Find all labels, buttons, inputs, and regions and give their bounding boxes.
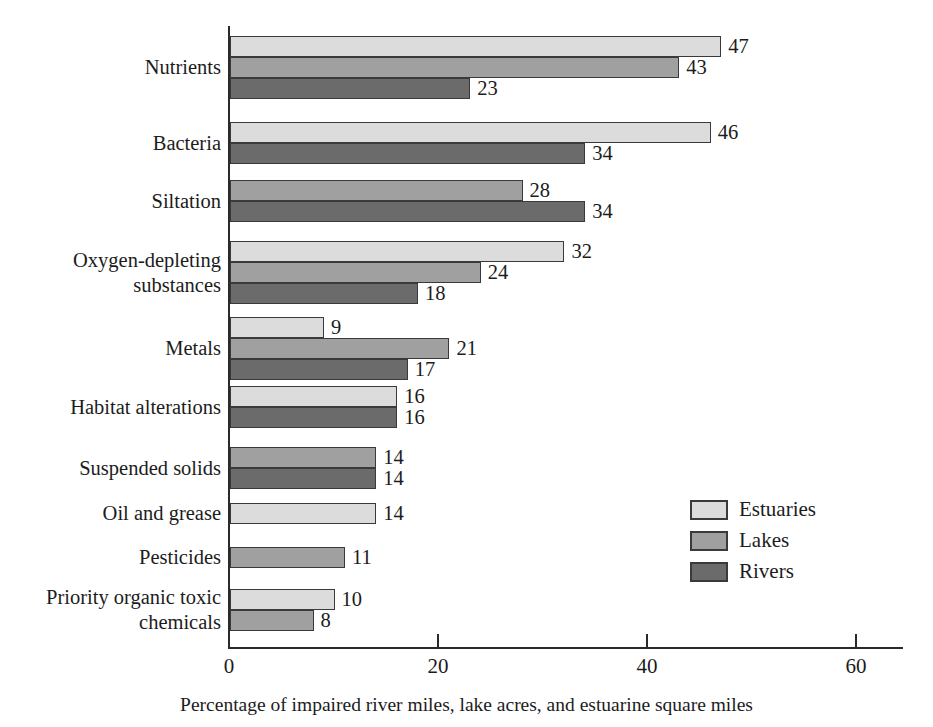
- bar-value-label: 21: [456, 337, 477, 360]
- bar: [230, 503, 376, 524]
- x-axis-tick-label: 40: [637, 654, 658, 679]
- bar: [230, 610, 314, 631]
- legend-swatch: [690, 531, 728, 551]
- bar-value-label: 23: [477, 77, 498, 100]
- bar-value-label: 14: [383, 446, 404, 469]
- x-axis-caption: Percentage of impaired river miles, lake…: [0, 694, 933, 716]
- bar: [230, 78, 470, 99]
- legend-item: Estuaries: [690, 494, 816, 525]
- category-label: Pesticides: [139, 545, 221, 570]
- category-label: Oxygen-depleting substances: [73, 248, 221, 298]
- category-label: Priority organic toxic chemicals: [46, 585, 221, 635]
- bar: [230, 338, 449, 359]
- x-axis-tick-label: 60: [846, 654, 867, 679]
- category-label: Oil and grease: [103, 501, 221, 526]
- legend-label: Estuaries: [739, 497, 816, 522]
- bar-value-label: 43: [686, 56, 707, 79]
- x-axis-tick: [646, 634, 648, 648]
- bar-value-label: 11: [352, 546, 372, 569]
- bar-value-label: 18: [425, 282, 446, 305]
- category-label: Metals: [165, 336, 221, 361]
- bar: [230, 589, 335, 610]
- bar: [230, 547, 345, 568]
- legend-swatch: [690, 500, 728, 520]
- bar-value-label: 46: [718, 121, 739, 144]
- bar: [230, 386, 397, 407]
- bar: [230, 180, 523, 201]
- bar-value-label: 34: [592, 142, 613, 165]
- bar: [230, 122, 711, 143]
- category-label: Habitat alterations: [70, 395, 221, 420]
- x-axis-tick-label: 20: [428, 654, 449, 679]
- x-axis-tick: [437, 634, 439, 648]
- category-label: Suspended solids: [79, 456, 221, 481]
- bar: [230, 262, 481, 283]
- bar-value-label: 28: [530, 179, 551, 202]
- bar-value-label: 14: [383, 502, 404, 525]
- x-axis-tick: [855, 634, 857, 648]
- bar: [230, 57, 679, 78]
- bar: [230, 407, 397, 428]
- category-label: Bacteria: [153, 131, 221, 156]
- bar-value-label: 16: [404, 385, 425, 408]
- bar-value-label: 32: [571, 240, 592, 263]
- bar: [230, 283, 418, 304]
- legend-swatch: [690, 562, 728, 582]
- bar-value-label: 14: [383, 467, 404, 490]
- bar: [230, 36, 721, 57]
- y-axis-line: [228, 26, 230, 648]
- legend-label: Rivers: [739, 559, 794, 584]
- bar: [230, 241, 564, 262]
- x-axis-tick-label: 0: [224, 654, 235, 679]
- x-axis-line: [228, 647, 903, 649]
- category-label: Nutrients: [145, 55, 221, 80]
- bar-value-label: 8: [321, 609, 331, 632]
- bar-value-label: 17: [415, 358, 436, 381]
- legend-label: Lakes: [739, 528, 789, 553]
- bar: [230, 447, 376, 468]
- legend-item: Rivers: [690, 556, 816, 587]
- legend-item: Lakes: [690, 525, 816, 556]
- bar: [230, 468, 376, 489]
- legend: EstuariesLakesRivers: [690, 494, 816, 587]
- bar-value-label: 9: [331, 316, 341, 339]
- bar: [230, 359, 408, 380]
- horizontal-bar-chart: NutrientsBacteriaSiltationOxygen-depleti…: [0, 0, 933, 727]
- bar: [230, 201, 585, 222]
- bar-value-label: 16: [404, 406, 425, 429]
- bar: [230, 143, 585, 164]
- bar-value-label: 34: [592, 200, 613, 223]
- bar-value-label: 47: [728, 35, 749, 58]
- bar-value-label: 24: [488, 261, 509, 284]
- bar-value-label: 10: [342, 588, 363, 611]
- bar: [230, 317, 324, 338]
- category-label: Siltation: [152, 189, 221, 214]
